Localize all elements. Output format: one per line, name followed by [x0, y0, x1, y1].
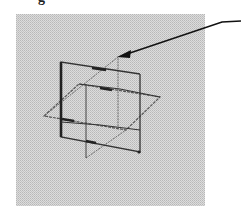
- intersecting-planes-diagram: [0, 0, 241, 213]
- corner-dot: [137, 150, 140, 153]
- figure-panel: [16, 14, 205, 206]
